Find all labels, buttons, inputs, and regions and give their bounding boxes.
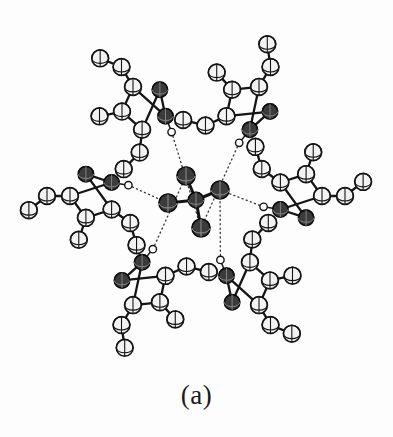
hydrogen-atom [217,256,224,263]
carbon-atom [103,201,120,218]
methyl-carbon-atom [175,112,192,129]
methyl-carbon-atom [337,188,354,205]
bridge-carbon-atom [70,231,87,248]
oxygen-atom [192,219,210,237]
hydrogen-atom [235,139,242,146]
methyl-carbon-atom [116,339,133,356]
methyl-carbon-atom [20,202,37,219]
nitrogen-atom-NH [219,268,234,283]
carbon-atom [218,108,235,125]
anion-center-atom [188,192,203,207]
methyl-carbon-atom [113,317,130,334]
figure-caption-label: (a) [181,380,212,410]
carbon-atom [125,78,142,95]
methyl-carbon-atom [355,173,372,190]
methyl-carbon-atom [247,138,264,155]
nitrogen-atom [152,82,167,97]
nitrogen-atom [298,210,313,225]
methyl-carbon-atom [244,231,261,248]
hydrogen-atom [125,181,132,188]
methyl-carbon-atom [178,258,195,275]
bridge-carbon-atom [167,311,184,328]
methyl-carbon-atom [200,264,217,281]
atom-layer [20,36,371,356]
carbon-atom [62,188,79,205]
nitrogen-atom-NH [158,108,173,123]
methyl-carbon-atom [262,59,279,76]
carbon-atom [157,267,174,284]
hydrogen-atom [149,245,156,252]
carbon-atom [224,81,241,98]
methyl-carbon-atom [131,144,148,161]
carbon-atom [314,188,331,205]
nitrogen-atom-NH [104,175,119,190]
bridge-carbon-atom [208,64,225,81]
methyl-carbon-atom [283,325,300,342]
oxygen-atom [211,181,229,199]
bridge-carbon-atom [91,108,108,125]
carbon-atom [134,121,151,138]
bridge-carbon-atom [284,267,301,284]
methyl-carbon-atom [92,50,109,67]
nitrogen-atom [114,273,129,288]
methyl-carbon-atom [115,161,132,178]
carbon-atom [298,166,315,183]
nitrogen-atom-NH [134,255,149,270]
carbon-atom [77,209,94,226]
methyl-carbon-atom [39,188,56,205]
hydrogen-atom [260,203,267,210]
nitrogen-atom-NH [273,202,288,217]
methyl-carbon-atom [122,215,139,232]
methyl-carbon-atom [260,215,277,232]
methyl-carbon-atom [262,317,279,334]
carbon-atom [251,297,268,314]
oxygen-atom [177,167,195,185]
carbon-atom [272,174,289,191]
methyl-carbon-atom [113,59,130,76]
hydrogen-atom [168,128,175,135]
carbon-atom [262,272,279,289]
methyl-carbon-atom [253,161,270,178]
nitrogen-atom [78,166,93,181]
oxygen-atom [159,194,177,212]
carbon-atom [114,103,131,120]
carbon-atom [251,78,268,95]
methyl-carbon-atom [128,237,145,254]
carbon-atom [125,297,142,314]
methyl-carbon-atom [259,36,276,53]
methyl-carbon-atom [197,117,214,134]
carbon-atom [151,294,168,311]
nitrogen-atom [224,295,239,310]
nitrogen-atom-NH [242,122,257,137]
figure-root: ORTEP thermal-ellipsoid plot: six pyrazo… [0,0,393,437]
nitrogen-atom [262,104,277,119]
ortep-structure-diagram [0,0,393,390]
bridge-carbon-atom [305,144,322,161]
carbon-atom [242,254,259,271]
figure-caption-area: (a) [0,382,393,409]
